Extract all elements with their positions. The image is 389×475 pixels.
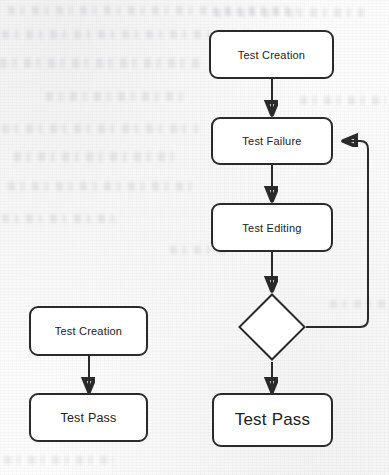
node-right-decision-diamond[interactable] bbox=[238, 293, 306, 361]
node-label: Test Creation bbox=[238, 49, 305, 61]
node-right-test-editing[interactable]: Test Editing bbox=[211, 203, 333, 252]
node-label: Test Editing bbox=[242, 222, 301, 234]
node-left-test-pass[interactable]: Test Pass bbox=[29, 393, 148, 442]
ghost-text-line bbox=[330, 300, 386, 308]
diagram-page: Test Creation Test Failure Test Editing … bbox=[0, 0, 389, 475]
ghost-text-line bbox=[46, 92, 186, 101]
ghost-text-line bbox=[300, 96, 386, 105]
node-label: Test Pass bbox=[235, 410, 311, 430]
ghost-text-line bbox=[14, 152, 174, 162]
ghost-text-line bbox=[2, 214, 122, 223]
ghost-text-line bbox=[4, 456, 114, 464]
ghost-text-line bbox=[214, 8, 364, 17]
node-label: Test Creation bbox=[55, 325, 122, 337]
node-label: Test Pass bbox=[61, 411, 117, 425]
ghost-text-line bbox=[8, 182, 192, 191]
ghost-text-line bbox=[0, 58, 200, 68]
ghost-text-line bbox=[8, 6, 298, 15]
node-right-test-pass[interactable]: Test Pass bbox=[212, 393, 333, 447]
ghost-text-line bbox=[2, 124, 198, 133]
node-left-test-creation[interactable]: Test Creation bbox=[29, 306, 148, 356]
node-right-test-failure[interactable]: Test Failure bbox=[211, 117, 333, 165]
node-label: Test Failure bbox=[242, 135, 301, 147]
node-right-test-creation[interactable]: Test Creation bbox=[209, 30, 334, 79]
